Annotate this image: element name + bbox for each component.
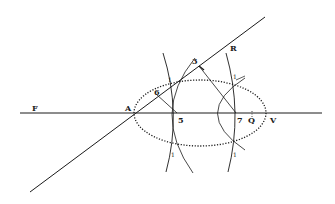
label-7: 7 [237,115,243,125]
label-1-upper-right: 1 [233,73,237,80]
label-A: A [124,103,132,113]
label-R: R [230,43,237,53]
label-1-lower-right: 1 [233,151,237,158]
label-V: V [269,115,277,125]
label-Q: Q [248,115,255,125]
right-arc-2 [218,78,246,150]
label-5: 5 [178,115,184,125]
label-1-upper-left: 1 [168,76,172,83]
label-1-lower-left: 1 [171,151,175,158]
label-F: F [32,103,38,113]
label-6: 6 [154,87,160,97]
tick-top-right [236,76,245,80]
label-3: 3 [192,56,198,66]
ellipse-construction-diagram: F A R V Q 5 7 3 6 1 1 1 1 [0,0,335,204]
